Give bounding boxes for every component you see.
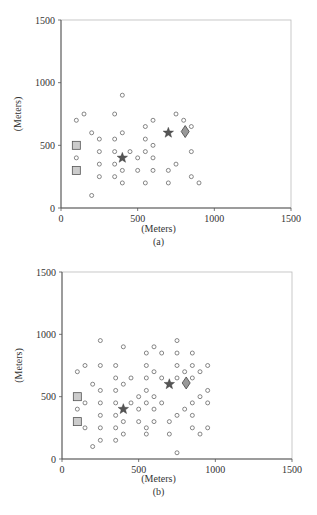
node-circle-marker: [206, 364, 210, 368]
node-circle-marker: [98, 364, 102, 368]
node-circle-marker: [198, 370, 202, 374]
node-circle-marker: [98, 388, 102, 392]
y-axis-label: (Meters): [13, 348, 25, 382]
node-circle-marker: [175, 364, 179, 368]
node-circle-marker: [121, 382, 125, 386]
node-circle-marker: [98, 401, 102, 405]
node-circle-marker: [144, 364, 148, 368]
node-circle-marker: [175, 413, 179, 417]
x-axis-label-b: (Meters): [0, 473, 317, 484]
y-tick-label: 500: [41, 391, 56, 402]
node-circle-marker: [98, 426, 102, 430]
node-circle-marker: [114, 376, 118, 380]
node-circle-marker: [206, 401, 210, 405]
node-circle-marker: [114, 413, 118, 417]
node-circle-marker: [152, 420, 156, 424]
node-circle-marker: [75, 370, 79, 374]
node-circle-marker: [114, 364, 118, 368]
node-circle-marker: [144, 432, 148, 436]
panel-b: 050010001500050010001500(Meters) (Meters…: [0, 0, 317, 515]
square-marker: [73, 393, 81, 401]
node-circle-marker: [137, 407, 141, 411]
node-circle-marker: [152, 407, 156, 411]
node-circle-marker: [91, 445, 95, 449]
node-circle-marker: [167, 420, 171, 424]
node-circle-marker: [152, 345, 156, 349]
panel-caption-b: (b): [0, 486, 317, 497]
node-circle-marker: [160, 376, 164, 380]
node-circle-marker: [137, 395, 141, 399]
node-circle-marker: [144, 426, 148, 430]
node-circle-marker: [190, 401, 194, 405]
node-circle-marker: [98, 413, 102, 417]
y-tick-label: 1000: [36, 329, 56, 340]
node-circle-marker: [144, 401, 148, 405]
diamond-marker: [182, 377, 190, 389]
node-circle-marker: [175, 451, 179, 455]
node-circle-marker: [121, 345, 125, 349]
node-circle-marker: [167, 432, 171, 436]
node-circle-marker: [183, 370, 187, 374]
node-circle-marker: [152, 395, 156, 399]
node-circle-marker: [175, 339, 179, 343]
node-circle-marker: [144, 351, 148, 355]
node-circle-marker: [198, 432, 202, 436]
node-circle-marker: [144, 388, 148, 392]
node-circle-marker: [175, 351, 179, 355]
node-circle-marker: [83, 401, 87, 405]
node-circle-marker: [129, 376, 133, 380]
node-circle-marker: [114, 438, 118, 442]
y-tick-label: 1500: [36, 267, 56, 278]
plot-frame: [62, 272, 292, 459]
node-circle-marker: [190, 364, 194, 368]
node-circle-marker: [190, 376, 194, 380]
scatter-plot-b: 050010001500050010001500(Meters): [0, 0, 317, 515]
node-circle-marker: [83, 426, 87, 430]
node-circle-marker: [114, 388, 118, 392]
node-circle-marker: [121, 420, 125, 424]
node-circle-marker: [121, 432, 125, 436]
node-circle-marker: [190, 351, 194, 355]
square-marker: [73, 418, 81, 426]
node-circle-marker: [137, 420, 141, 424]
node-circle-marker: [160, 401, 164, 405]
node-circle-marker: [206, 388, 210, 392]
y-tick-label: 0: [51, 454, 56, 465]
node-circle-marker: [129, 401, 133, 405]
node-circle-marker: [98, 339, 102, 343]
node-circle-marker: [198, 395, 202, 399]
node-circle-marker: [114, 401, 118, 405]
node-circle-marker: [160, 351, 164, 355]
star-marker: [164, 379, 174, 389]
node-circle-marker: [91, 382, 95, 386]
node-circle-marker: [114, 426, 118, 430]
node-circle-marker: [144, 376, 148, 380]
node-circle-marker: [152, 370, 156, 374]
node-circle-marker: [75, 407, 79, 411]
plot-area: 050010001500050010001500(Meters): [13, 267, 302, 476]
star-marker: [118, 404, 128, 414]
node-circle-marker: [98, 438, 102, 442]
node-circle-marker: [190, 426, 194, 430]
node-circle-marker: [83, 364, 87, 368]
node-circle-marker: [190, 413, 194, 417]
node-circle-marker: [183, 407, 187, 411]
node-circle-marker: [206, 426, 210, 430]
node-circle-marker: [175, 376, 179, 380]
